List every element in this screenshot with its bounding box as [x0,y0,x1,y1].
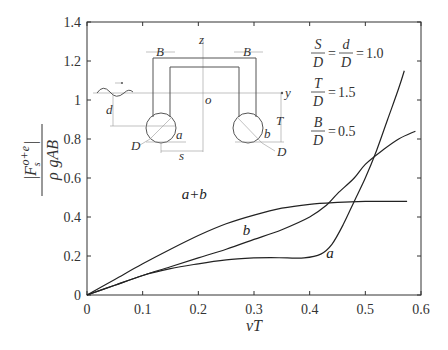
inset-label-D-right: D [276,144,287,159]
curve-label-b: b [243,222,251,238]
axis-ticks [87,22,421,295]
y-label-sup: o+e [18,145,32,165]
y-axis-title: |Fso+e| ρgAB [18,124,62,196]
svg-text:D: D [312,133,323,148]
x-tick-label: 0.1 [134,302,152,317]
svg-text:d: d [343,37,351,52]
wave-arrow-head [121,82,123,84]
pontoon-b-diameter [237,117,262,143]
x-tick-label: 0.3 [245,302,263,317]
svg-text:D: D [312,94,323,109]
curve-a-plus-b [87,201,407,295]
param-TD: T D = 1.5 [311,76,356,109]
svg-text:D: D [312,55,323,70]
svg-text:0.5: 0.5 [338,124,356,139]
param-SD: S D = d D = 1.0 [311,37,384,70]
param-BD: B D = 0.5 [311,115,356,148]
inset-label-s: s [179,148,184,163]
inset-label-d: d [106,102,113,117]
curve-label-a-plus-b: a+b [182,186,208,202]
curve-b [87,131,415,295]
plot-frame [87,22,421,295]
x-tick-label: 0.5 [357,302,375,317]
y-label-sub: s [31,162,42,166]
svg-text:=: = [328,124,336,139]
svg-text:1.5: 1.5 [338,85,356,100]
x-tick-label: 0.6 [412,302,430,317]
svg-text:D: D [340,55,351,70]
svg-text:B: B [314,115,323,130]
y-tick-label: 0.6 [64,171,82,186]
inset-label-b: b [264,126,271,141]
y-axis-arrow [281,92,283,94]
svg-text:1.0: 1.0 [366,46,384,61]
pontoon-a-diameter [150,117,172,139]
inset-label-o: o [205,92,212,107]
x-tick-label: 0.2 [190,302,208,317]
inset-label-B-right: B [243,44,251,59]
pontoon-b-leader [262,143,275,151]
inset-label-y: y [283,85,291,100]
y-label-bar-right: | [22,141,40,144]
wave-icon [97,88,133,96]
svg-text:|Fso+e|: |Fso+e| [18,141,42,180]
y-tick-label: 0.4 [64,210,82,225]
chart: 00.10.20.30.40.50.600.20.40.60.811.21.4 … [0,0,448,350]
svg-text:S: S [315,37,322,52]
y-label-gAB: gAB [44,140,62,168]
svg-text:=: = [356,46,364,61]
inset-label-D-left: D [130,138,141,153]
svg-text:T: T [314,76,323,91]
y-tick-label: 1.2 [64,54,82,69]
y-tick-label: 0.8 [64,132,82,147]
inset-diagram: B B z y o d T a b D D s [93,32,291,163]
y-label-rho: ρ [44,172,62,181]
inset-label-T: T [276,113,284,128]
y-tick-label: 1 [74,93,81,108]
x-tick-label: 0 [84,302,91,317]
curve-label-a: a [326,245,334,261]
inset-label-a: a [176,127,183,142]
y-tick-label: 0 [74,288,81,303]
svg-text:=: = [328,46,336,61]
x-axis-title: vT [246,317,263,334]
curves: a+bba [87,71,415,295]
svg-text:=: = [328,85,336,100]
inset-label-B-left: B [156,44,164,59]
parameter-block: S D = d D = 1.0 T D = 1.5 B D = 0.5 [311,37,384,148]
curve-a [87,71,404,295]
y-tick-label: 0.2 [64,249,82,264]
inset-label-z: z [198,32,204,47]
y-tick-label: 1.4 [64,15,82,30]
svg-text:ρgAB: ρgAB [44,140,62,181]
x-tick-label: 0.4 [301,302,319,317]
y-label-F-letter: F [22,166,39,177]
